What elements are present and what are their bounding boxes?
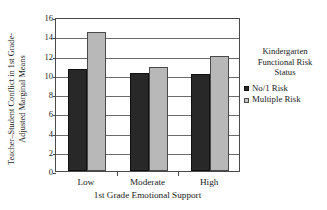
x-axis-tick-labels: LowModerateHigh (55, 176, 240, 190)
light-square-icon (244, 98, 249, 103)
legend-item-label: Multiple Risk (252, 94, 301, 106)
y-axis-tick-label: 10 (33, 71, 53, 80)
bar-series-container (56, 19, 239, 171)
y-axis-tick-label: 6 (33, 110, 53, 119)
legend-title: KindergartenFunctional RiskStatus (243, 46, 327, 78)
x-axis-tick-label: Low (77, 176, 94, 188)
plot-area (55, 18, 240, 172)
y-axis-tick-label: 14 (33, 33, 53, 42)
legend-item: No/1 Risk (244, 83, 327, 95)
bar-chart-figure: Teacher–Student Conflict in 1st Grade- A… (0, 0, 327, 210)
bar (68, 69, 87, 171)
legend-item-label: No/1 Risk (252, 83, 288, 95)
y-axis-tick-label: 4 (33, 129, 53, 138)
bar (210, 56, 229, 172)
y-axis-tick-label: 2 (33, 148, 53, 157)
bar (87, 32, 106, 171)
legend-title-line: Status (243, 67, 327, 78)
y-axis-tick-label: 8 (33, 91, 53, 100)
legend-items: No/1 RiskMultiple Risk (243, 83, 327, 106)
bar (191, 74, 210, 171)
dark-square-icon (244, 86, 249, 91)
y-axis-tick-label: 0 (33, 168, 53, 177)
y-axis-tick-label: 16 (33, 14, 53, 23)
legend-title-line: Functional Risk (243, 57, 327, 68)
bar (130, 73, 149, 171)
y-axis-tick-labels: 0246810121416 (33, 18, 53, 172)
legend: KindergartenFunctional RiskStatus No/1 R… (243, 46, 327, 106)
x-axis-title: 1st Grade Emotional Support (55, 189, 240, 201)
y-axis-title-line-1: Teacher–Student Conflict in 1st Grade- (7, 14, 18, 184)
legend-item: Multiple Risk (244, 94, 327, 106)
x-axis-tick-label: Moderate (130, 176, 165, 188)
y-axis-title-line-2: Adjusted Marginal Means (18, 14, 29, 184)
y-axis-tick-label: 12 (33, 52, 53, 61)
x-axis-tick-label: High (200, 176, 218, 188)
bar (149, 67, 168, 171)
legend-title-line: Kindergarten (243, 46, 327, 57)
